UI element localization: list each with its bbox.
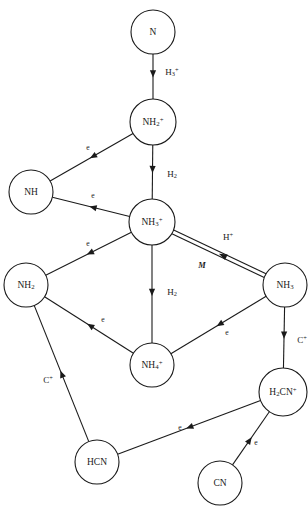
edge-line-double [174, 230, 266, 274]
node-NH3p[interactable]: NH3+ [129, 199, 175, 245]
node-H2CNp[interactable]: H2CN+ [259, 368, 307, 416]
node-CN[interactable]: CN [198, 461, 242, 505]
edge-label-e2: e [86, 143, 90, 152]
arrow-head-e9 [87, 324, 95, 330]
arrow-head-e13 [186, 423, 194, 429]
arrow-head-e2 [90, 152, 98, 158]
node-N[interactable]: N [131, 10, 175, 54]
node-label-HCN: HCN [87, 457, 107, 467]
edge-label-e7: H+ [223, 231, 234, 242]
edge-label-e11: C+ [297, 334, 307, 345]
arrow-head-e3 [149, 166, 155, 173]
edge-label-e3: H2 [167, 169, 177, 179]
node-NH3[interactable]: NH3 [263, 263, 307, 307]
node-NH4p[interactable]: NH4+ [130, 343, 174, 387]
node-label-H2CNp: H2CN+ [269, 385, 296, 397]
node-HCN[interactable]: HCN [75, 440, 119, 484]
node-NH2[interactable]: NH2 [4, 263, 48, 307]
node-NH2p[interactable]: NH2+ [130, 99, 176, 145]
reaction-network-diagram: NNH2+NHNH3+NH2NH3NH4+H2CN+HCNCN H3+eH2ee… [0, 0, 308, 507]
arrow-head-e14 [245, 437, 252, 445]
node-layer: NNH2+NHNH3+NH2NH3NH4+H2CN+HCNCN [4, 10, 307, 505]
edge-label-e1: H3+ [165, 66, 179, 77]
arrow-head-e10 [217, 320, 225, 326]
edge-label-e4: e [91, 191, 95, 200]
arrow-head-e12 [60, 371, 66, 379]
edge-label-e10: e [225, 328, 229, 337]
node-NH[interactable]: NH [9, 170, 53, 214]
arrow-head-e6 [149, 289, 155, 296]
edge-label-e14: e [254, 438, 258, 447]
edge-label-e5: e [86, 239, 90, 248]
diagram-canvas: NNH2+NHNH3+NH2NH3NH4+H2CN+HCNCN H3+eH2ee… [0, 0, 308, 507]
edge-label-e12: C+ [43, 374, 53, 385]
edge-label-e9: e [101, 315, 105, 324]
arrow-head-e1 [150, 70, 156, 77]
node-label-CN: CN [213, 478, 226, 488]
edge-line-double [172, 234, 264, 278]
node-label-NH: NH [24, 187, 38, 197]
node-label-N: N [150, 27, 157, 37]
arrow-head-e11 [281, 331, 287, 338]
edge-label-e6: H2 [167, 287, 177, 297]
edge-label-e8: M [197, 261, 206, 270]
arrow-head-e4 [89, 205, 97, 211]
